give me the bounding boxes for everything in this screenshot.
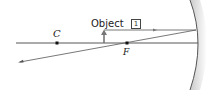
object-label: Object bbox=[91, 19, 124, 29]
step-number-box: 1 bbox=[131, 19, 141, 29]
reflected-ray bbox=[20, 30, 196, 62]
ray-direction-arrow-icon bbox=[153, 29, 157, 32]
mirror-shading bbox=[190, 0, 207, 90]
point-c bbox=[56, 42, 59, 45]
reflected-ray-arrow-icon bbox=[18, 60, 24, 63]
ray-diagram bbox=[0, 0, 209, 90]
label-f: F bbox=[123, 48, 129, 57]
label-c: C bbox=[53, 29, 61, 39]
point-f bbox=[126, 42, 129, 45]
